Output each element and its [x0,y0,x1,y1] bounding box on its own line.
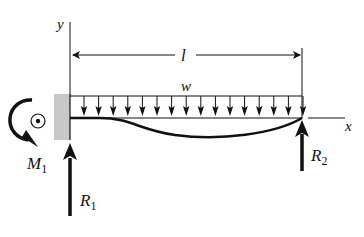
moment-label: M [26,154,42,173]
deflection-curve [70,118,302,137]
reaction-r2: R2 [295,120,327,171]
moment-subscript: 1 [41,162,47,176]
svg-text:R2: R2 [310,146,327,168]
load-label: w [181,78,191,94]
moment-m1: M1 [10,100,47,176]
reaction-r1: R1 [63,143,96,216]
length-label: l [181,46,186,65]
distributed-load: w [70,78,306,116]
load-arrows [81,96,306,116]
fixed-support-wall [54,94,70,140]
x-axis: x [70,118,352,134]
reaction-right-subscript: 2 [321,154,327,168]
beam-diagram: y l w x M1 R1 [0,0,364,237]
y-axis-label: y [55,16,64,32]
reaction-right-label: R [310,146,322,165]
x-axis-label: x [344,118,352,134]
svg-text:R1: R1 [79,191,96,213]
y-axis: y [55,16,70,95]
reaction-left-subscript: 1 [90,199,96,213]
reaction-left-label: R [79,191,91,210]
svg-text:M1: M1 [26,154,47,176]
